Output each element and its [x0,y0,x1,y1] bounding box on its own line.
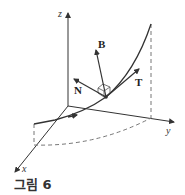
point-on-curve [104,95,108,99]
tnb-frame-diagram: z y x B N T [0,0,185,195]
z-axis-label: z [57,8,62,19]
x-axis-label: x [21,163,27,174]
coordinate-axes [15,13,174,172]
binormal-vector [96,50,106,97]
normal-label: N [74,84,82,96]
y-axis [68,106,174,122]
figure-caption: 그림 6 [14,174,52,193]
tangent-label: T [135,76,143,88]
y-axis-label: y [165,125,171,136]
binormal-label: B [98,38,106,50]
dashed-arc [34,118,151,145]
